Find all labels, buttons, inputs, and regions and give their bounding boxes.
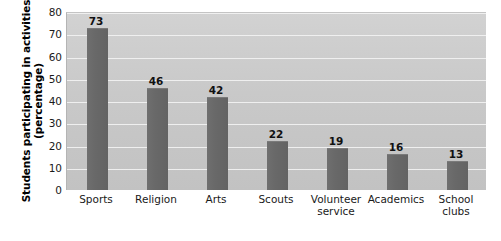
bar-chart-figure: Students participating in activities (pe… <box>0 0 501 241</box>
bar-school-clubs[interactable] <box>447 161 468 190</box>
x-category-label-line: Religion <box>135 193 177 205</box>
y-tick-label-60: 60 <box>36 51 62 63</box>
x-category-label-line: Volunteer <box>311 193 361 205</box>
y-tick-label-30: 30 <box>36 117 62 129</box>
bar-slot <box>127 13 187 190</box>
y-tick-label-0: 0 <box>36 184 62 196</box>
x-category-label-line: Sports <box>79 193 113 205</box>
bar-slot <box>187 13 247 190</box>
y-axis-tick-labels: 01020304050607080 <box>36 12 62 190</box>
bar-religion[interactable] <box>147 88 168 190</box>
bar-slot <box>367 13 427 190</box>
plot-area <box>66 12 486 190</box>
y-tick-label-20: 20 <box>36 140 62 152</box>
y-tick-label-40: 40 <box>36 95 62 107</box>
x-axis-category-labels: SportsReligionArtsScoutsVolunteerservice… <box>66 193 486 239</box>
x-category-label-line: School <box>439 193 474 205</box>
x-category-label-line: service <box>300 205 372 217</box>
bar-slot <box>307 13 367 190</box>
x-category-label-line: clubs <box>420 205 492 217</box>
y-tick-label-50: 50 <box>36 73 62 85</box>
bar-volunteer-service[interactable] <box>327 148 348 190</box>
y-tick-label-70: 70 <box>36 28 62 40</box>
y-axis-title-line-1: Students participating in activities <box>21 0 33 202</box>
bar-slot <box>247 13 307 190</box>
y-tick-label-10: 10 <box>36 162 62 174</box>
bar-arts[interactable] <box>207 97 228 190</box>
bars-group <box>67 13 486 190</box>
bar-slot <box>67 13 127 190</box>
x-category-label: Schoolclubs <box>420 193 492 218</box>
bar-scouts[interactable] <box>267 141 288 190</box>
x-category-label-line: Academics <box>368 193 425 205</box>
bar-sports[interactable] <box>87 28 108 190</box>
y-tick-label-80: 80 <box>36 6 62 18</box>
bar-slot <box>427 13 486 190</box>
x-category-label-line: Arts <box>205 193 226 205</box>
x-category-label-line: Scouts <box>258 193 293 205</box>
bar-academics[interactable] <box>387 154 408 190</box>
